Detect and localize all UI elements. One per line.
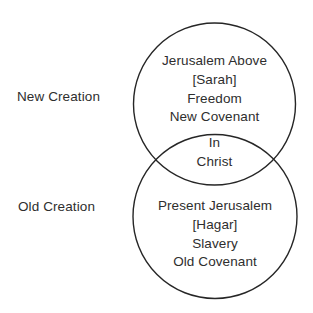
bottom-circle-line-present-jerusalem: Present Jerusalem xyxy=(134,197,296,216)
bottom-circle-line-old-covenant: Old Covenant xyxy=(134,253,296,272)
label-new-creation: New Creation xyxy=(17,89,100,105)
intersection-line-in: In xyxy=(134,134,295,153)
bottom-circle-line-slavery: Slavery xyxy=(134,235,296,254)
top-circle-line-freedom: Freedom xyxy=(134,90,295,109)
top-circle-text: Jerusalem Above [Sarah] Freedom New Cove… xyxy=(134,52,295,127)
venn-diagram-canvas: New Creation Old Creation Jerusalem Abov… xyxy=(0,0,313,313)
bottom-circle-text: Present Jerusalem [Hagar] Slavery Old Co… xyxy=(134,197,296,272)
bottom-circle-line-hagar: [Hagar] xyxy=(134,216,296,235)
top-circle-line-new-covenant: New Covenant xyxy=(134,108,295,127)
intersection-text: In Christ xyxy=(134,134,295,172)
intersection-line-christ: Christ xyxy=(134,153,295,172)
label-old-creation: Old Creation xyxy=(18,199,95,215)
top-circle-line-sarah: [Sarah] xyxy=(134,71,295,90)
top-circle-line-jerusalem-above: Jerusalem Above xyxy=(134,52,295,71)
